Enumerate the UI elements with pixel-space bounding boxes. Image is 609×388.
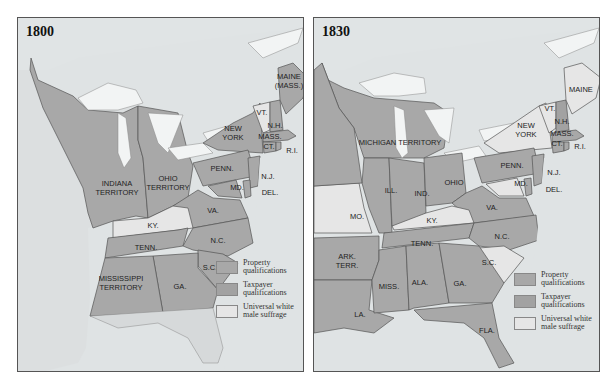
label-louisiana: LA. (354, 310, 365, 319)
map-panel-1830: 1830 (313, 17, 600, 372)
label-virginia: VA. (207, 206, 219, 215)
label-pennsylvania: PENN. (501, 161, 524, 170)
label-alabama: ALA. (412, 278, 428, 287)
label-mississippi-territory: MISSISSIPPITERRITORY (99, 274, 144, 292)
label-maryland: MD. (230, 183, 244, 192)
legend-swatch (514, 317, 536, 330)
label-kentucky: KY. (426, 216, 437, 225)
label-vermont: VT. (545, 104, 556, 113)
region-florida (414, 303, 514, 368)
legend-swatch (514, 273, 536, 286)
label-georgia: GA. (454, 279, 467, 288)
legend-1830: Propertyqualifications Taxpayerqualifica… (514, 271, 592, 337)
panel-year: 1830 (322, 24, 350, 40)
legend-item-taxpayer: Taxpayerqualifications (514, 293, 592, 309)
label-missouri: MO. (350, 212, 364, 221)
region-delaware (243, 180, 251, 198)
label-pennsylvania: PENN. (211, 164, 234, 173)
label-ohio: OHIO (444, 178, 463, 187)
label-vermont: VT. (257, 108, 268, 117)
region-rhode-island (564, 142, 569, 151)
label-new-hampshire: N.H. (555, 117, 570, 126)
legend-item-universal: Universal whitemale suffrage (216, 303, 294, 319)
label-rhode-island: R.I. (286, 146, 298, 155)
label-rhode-island: R.I. (574, 142, 586, 151)
label-indiana-territory: INDIANATERRITORY (95, 179, 138, 197)
label-north-carolina: N.C. (211, 236, 226, 245)
label-illinois: ILL. (385, 186, 398, 195)
label-kentucky: KY. (147, 221, 158, 230)
label-michigan-territory: MICHIGAN TERRITORY (359, 138, 442, 147)
panel-year: 1800 (26, 24, 54, 40)
label-georgia: GA. (174, 282, 187, 291)
legend-swatch (216, 305, 238, 318)
label-mississippi: MISS. (379, 282, 399, 291)
label-tennessee: TENN. (411, 239, 434, 248)
legend-item-property: Propertyqualifications (514, 271, 592, 287)
legend-1800: Propertyqualifications Taxpayerqualifica… (216, 259, 294, 325)
label-massachusetts: MASS. (550, 129, 573, 138)
label-tennessee: TENN. (135, 243, 158, 252)
label-massachusetts: MASS. (258, 132, 281, 141)
label-arkansas-territory: ARK.TERR. (336, 252, 359, 270)
label-maryland: MD. (514, 179, 528, 188)
region-rhode-island (276, 142, 281, 151)
legend-item-property: Propertyqualifications (216, 259, 294, 275)
label-delaware: DEL. (262, 188, 279, 197)
legend-swatch (216, 261, 238, 274)
label-maine: MAINE(MASS.) (275, 72, 303, 90)
label-maine: MAINE (569, 85, 593, 94)
label-connecticut: CT. (263, 142, 274, 151)
label-indiana: IND. (415, 189, 430, 198)
legend-swatch (216, 283, 238, 296)
label-new-york: NEWYORK (515, 121, 536, 139)
label-new-york: NEWYORK (222, 124, 243, 142)
label-new-jersey: N.J. (261, 172, 274, 181)
label-north-carolina: N.C. (495, 232, 510, 241)
label-south-carolina: S.C. (482, 258, 497, 267)
region-missouri (314, 183, 372, 233)
label-virginia: VA. (486, 203, 498, 212)
map-panel-1800: 1800 (17, 17, 304, 372)
label-florida: FLA. (479, 326, 495, 335)
legend-swatch (514, 295, 536, 308)
label-delaware: DEL. (546, 185, 563, 194)
label-connecticut: CT. (551, 139, 562, 148)
label-new-hampshire: N.H. (268, 121, 283, 130)
legend-item-taxpayer: Taxpayerqualifications (216, 281, 294, 297)
legend-item-universal: Universal whitemale suffrage (514, 315, 592, 331)
label-ohio-territory: OHIOTERRITORY (146, 174, 189, 192)
label-new-jersey: N.J. (547, 168, 560, 177)
